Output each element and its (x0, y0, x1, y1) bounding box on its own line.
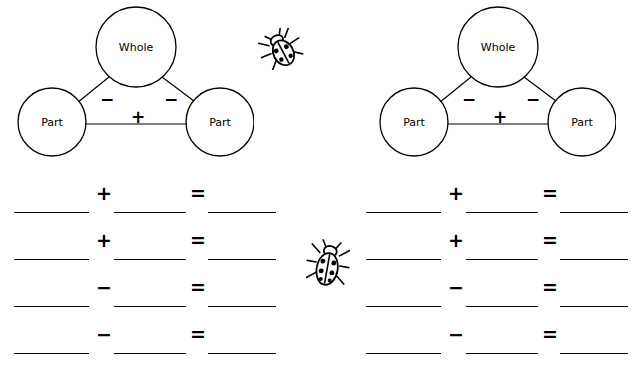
answer-blank[interactable] (208, 212, 276, 213)
equation-operator: − (448, 325, 464, 344)
left-equation-row-4: − = (14, 316, 279, 365)
beetle-icon-middle (306, 238, 350, 294)
answer-blank[interactable] (14, 212, 89, 213)
equation-operator: − (96, 278, 112, 297)
equation-operator: + (448, 231, 464, 250)
left-bond-part-left-label: Part (22, 116, 82, 129)
right-equation-row-4: − = (366, 316, 631, 365)
answer-blank[interactable] (366, 306, 441, 307)
answer-blank[interactable] (560, 259, 628, 260)
left-number-bond: Whole Part Part − − + (14, 2, 254, 177)
equation-equals: = (190, 325, 206, 344)
right-bond-part-left-label: Part (384, 116, 444, 129)
answer-blank[interactable] (208, 306, 276, 307)
equation-operator: + (96, 184, 112, 203)
left-bond-plus-bottom: + (131, 109, 145, 126)
answer-blank[interactable] (14, 353, 89, 354)
equation-equals: = (542, 278, 558, 297)
equation-equals: = (542, 325, 558, 344)
right-equation-row-2: + = (366, 222, 631, 272)
right-number-bond: Whole Part Part − − + (376, 2, 616, 177)
answer-blank[interactable] (208, 353, 276, 354)
right-bond-minus-left: − (462, 91, 476, 108)
equation-equals: = (542, 184, 558, 203)
right-bond-whole-label: Whole (468, 41, 528, 54)
answer-blank[interactable] (466, 353, 538, 354)
equation-operator: − (96, 325, 112, 344)
answer-blank[interactable] (114, 353, 186, 354)
right-equation-row-3: − = (366, 269, 631, 319)
equation-operator: + (448, 184, 464, 203)
answer-blank[interactable] (560, 353, 628, 354)
answer-blank[interactable] (466, 306, 538, 307)
equation-equals: = (190, 184, 206, 203)
answer-blank[interactable] (114, 212, 186, 213)
left-equation-row-3: − = (14, 269, 279, 319)
right-bond-part-right-label: Part (552, 116, 612, 129)
answer-blank[interactable] (560, 306, 628, 307)
right-bond-plus-bottom: + (493, 109, 507, 126)
left-bond-whole-label: Whole (106, 41, 166, 54)
right-equation-row-1: + = (366, 175, 631, 225)
left-bond-part-right-label: Part (190, 116, 250, 129)
answer-blank[interactable] (366, 212, 441, 213)
right-bond-minus-right: − (526, 91, 540, 108)
answer-blank[interactable] (466, 212, 538, 213)
equation-equals: = (542, 231, 558, 250)
left-bond-minus-left: − (100, 91, 114, 108)
equation-operator: + (96, 231, 112, 250)
answer-blank[interactable] (114, 306, 186, 307)
answer-blank[interactable] (560, 212, 628, 213)
equation-equals: = (190, 278, 206, 297)
left-bond-minus-right: − (164, 91, 178, 108)
worksheet-page: Whole Part Part − − + Whole Part Part − … (0, 0, 635, 365)
answer-blank[interactable] (114, 259, 186, 260)
answer-blank[interactable] (14, 306, 89, 307)
answer-blank[interactable] (14, 259, 89, 260)
left-equation-row-1: + = (14, 175, 279, 225)
left-bond-diagram (14, 2, 254, 177)
left-equation-row-2: + = (14, 222, 279, 272)
equation-equals: = (190, 231, 206, 250)
answer-blank[interactable] (366, 259, 441, 260)
answer-blank[interactable] (366, 353, 441, 354)
beetle-icon-top (258, 28, 306, 74)
answer-blank[interactable] (466, 259, 538, 260)
right-bond-diagram (376, 2, 616, 177)
answer-blank[interactable] (208, 259, 276, 260)
equation-operator: − (448, 278, 464, 297)
